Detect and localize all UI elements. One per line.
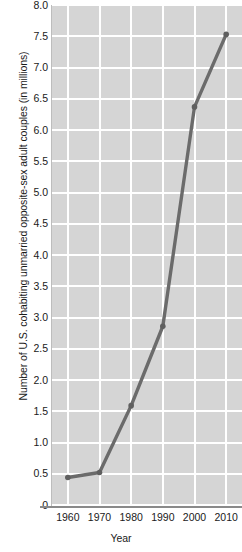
y-axis-tick-label: 7.5 — [20, 30, 48, 43]
y-axis-tick-label: 7.0 — [20, 61, 48, 74]
data-point-marker — [65, 475, 71, 481]
y-axis-tick-label: 2.5 — [20, 342, 48, 355]
x-axis-title: Year — [0, 530, 242, 546]
series-polyline — [68, 34, 226, 477]
x-axis-tick-labels: 196019701980199020002010 — [0, 510, 242, 526]
y-axis-tick-label: 3.5 — [20, 280, 48, 293]
plot-area — [52, 5, 242, 505]
y-axis-tick-label: 2.0 — [20, 374, 48, 387]
y-axis-line — [51, 5, 52, 506]
y-axis-tick-label: 3.0 — [20, 311, 48, 324]
data-point-marker — [128, 403, 134, 409]
data-point-marker — [160, 323, 166, 329]
y-axis-tick-label: 8.0 — [20, 0, 48, 12]
y-axis-tick-labels: 00.51.01.52.02.53.03.54.04.55.05.56.06.5… — [20, 0, 48, 552]
y-axis-tick-label: 4.0 — [20, 249, 48, 262]
x-axis-tick-label: 2010 — [206, 510, 242, 524]
x-axis-line — [40, 506, 242, 508]
data-series-line — [52, 5, 242, 505]
data-point-marker — [223, 32, 229, 38]
data-point-marker — [192, 104, 198, 110]
y-axis-tick-label: 5.5 — [20, 155, 48, 168]
y-axis-tick-label: 6.5 — [20, 92, 48, 105]
line-chart: Number of U.S. cohabiting unmarried oppo… — [0, 0, 242, 552]
y-axis-tick-label: 6.0 — [20, 124, 48, 137]
y-axis-tick-label: 0.5 — [20, 467, 48, 480]
y-axis-tick-label: 1.0 — [20, 436, 48, 449]
y-axis-tick-label: 5.0 — [20, 186, 48, 199]
data-point-marker — [97, 470, 103, 476]
y-axis-tick-label: 1.5 — [20, 405, 48, 418]
y-axis-tick-label: 4.5 — [20, 217, 48, 230]
